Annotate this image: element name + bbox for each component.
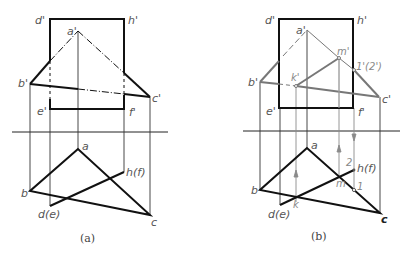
label-1-2-prime: 1'(2') (356, 61, 382, 72)
label-d-e: d(e) (38, 208, 60, 221)
label-h-f: h(f) (126, 166, 145, 179)
label-e-prime: e' (37, 105, 47, 118)
label-d-prime: d' (35, 14, 45, 27)
caption-b: (b) (311, 230, 327, 243)
label-b-prime: b' (248, 76, 258, 89)
label-h-prime: h' (357, 14, 367, 27)
label-m-prime: m' (337, 46, 350, 57)
arrow-up-icon (337, 145, 341, 152)
label-b: b (251, 184, 258, 197)
label-h-f: h(f) (357, 162, 376, 175)
rectangle-front-view (50, 19, 124, 109)
construction-lines (294, 58, 356, 202)
label-d-e: d(e) (268, 208, 290, 221)
label-a-prime: a' (67, 25, 77, 38)
label-f-prime: f' (358, 106, 365, 119)
label-a-prime: a' (296, 24, 306, 37)
label-b: b (21, 187, 28, 200)
label-e-prime: e' (266, 105, 276, 118)
panel-a: d' h' a' b' c' e' f' a b c d(e) h(f) (a) (12, 14, 168, 245)
label-c-prime: c' (152, 92, 161, 105)
label-h-prime: h' (128, 14, 138, 27)
top-view (30, 149, 150, 215)
label-1: 1 (357, 181, 363, 192)
rectangle-front-view (279, 19, 353, 108)
arrow-up-icon (294, 170, 298, 177)
label-c: c (381, 213, 388, 226)
label-k-prime: k' (291, 72, 300, 83)
triangle-front-view (30, 31, 150, 97)
label-b-prime: b' (18, 77, 28, 90)
label-2: 2 (346, 157, 352, 168)
label-c: c (151, 216, 157, 229)
label-a: a (82, 140, 89, 153)
label-a: a (311, 139, 318, 152)
panel-b: d' h' a' b' c' e' f' k' m' 1'(2') a b c … (243, 14, 400, 243)
label-f-prime: f' (129, 106, 136, 119)
label-m: m (336, 178, 346, 189)
orthographic-projection-figure: d' h' a' b' c' e' f' a b c d(e) h(f) (a) (0, 0, 403, 253)
caption-a: (a) (80, 232, 95, 245)
label-c-prime: c' (382, 93, 391, 106)
arrow-down-icon (352, 134, 356, 141)
label-d-prime: d' (265, 14, 275, 27)
label-k: k (293, 199, 300, 210)
